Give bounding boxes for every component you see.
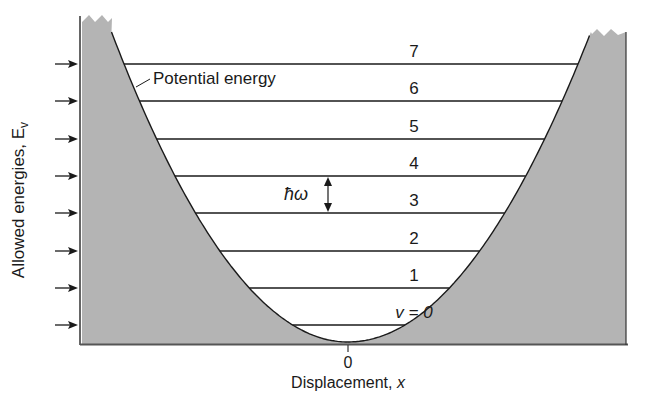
harmonic-oscillator-diagram: v = 01234567 Potential energy ħω 0 Displ… [0,0,660,413]
spacing-indicator: ħω [284,177,332,212]
allowed-energy-arrows [55,60,78,329]
potential-energy-leader [136,79,150,87]
x-axis-label: Displacement, x [291,374,406,391]
energy-level-label-0: v = 0 [395,303,433,322]
energy-level-label-2: 2 [409,229,418,248]
energy-level-label-3: 3 [409,191,418,210]
arrow-down-icon [324,203,332,212]
y-axis-label: Allowed energies, Ev [9,122,31,278]
energy-level-label-7: 7 [409,42,418,61]
energy-level-label-6: 6 [409,79,418,98]
potential-energy-label: Potential energy [153,69,276,88]
arrow-up-icon [324,177,332,186]
energy-level-label-4: 4 [409,154,418,173]
x-origin-label: 0 [344,354,353,371]
right-potential-region [348,29,626,344]
energy-level-label-1: 1 [409,266,418,285]
spacing-label: ħω [284,184,308,204]
energy-level-label-5: 5 [409,117,418,136]
